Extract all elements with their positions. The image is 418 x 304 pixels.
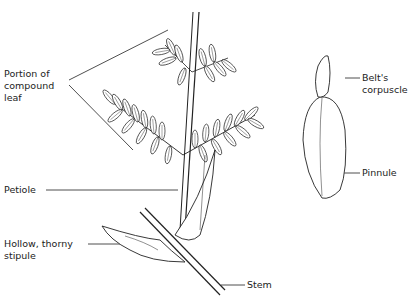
pinnule-detail	[303, 56, 346, 199]
label-line: Hollow, thorny	[4, 238, 73, 250]
label-compound-leaf: Portion of compound leaf	[4, 68, 54, 104]
label-line: corpuscle	[362, 84, 408, 96]
label-line: Belt's	[362, 72, 408, 84]
label-belts-corpuscle: Belt's corpuscle	[362, 72, 408, 96]
label-line: compound	[4, 80, 54, 92]
lower-leaf	[101, 88, 265, 164]
label-stipule: Hollow, thorny stipule	[4, 238, 73, 262]
label-petiole: Petiole	[4, 184, 36, 196]
label-line: stipule	[4, 250, 73, 262]
upper-leaf	[152, 12, 238, 230]
label-line: leaf	[4, 92, 54, 104]
stipule-thorns	[102, 150, 215, 262]
label-pinnule: Pinnule	[362, 167, 397, 179]
label-stem: Stem	[247, 279, 272, 291]
label-line: Portion of	[4, 68, 54, 80]
